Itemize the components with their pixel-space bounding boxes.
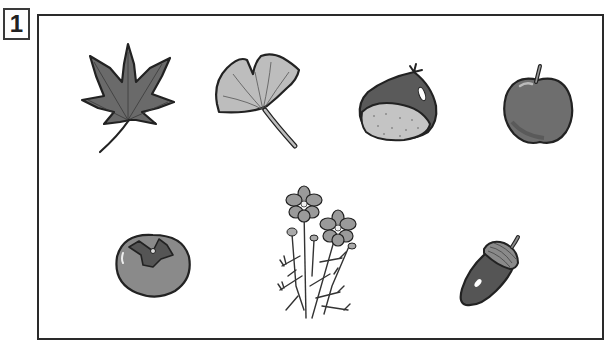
- question-number-box: 1: [3, 8, 30, 40]
- cosmos-flower-icon: [276, 186, 372, 322]
- persimmon-icon: [113, 231, 193, 301]
- question-number: 1: [10, 10, 23, 38]
- acorn-icon: [456, 235, 526, 307]
- ginkgo-leaf-icon: [211, 52, 307, 152]
- chestnut-icon: [356, 62, 440, 144]
- apple-icon: [500, 62, 576, 146]
- maple-leaf-icon: [78, 42, 180, 156]
